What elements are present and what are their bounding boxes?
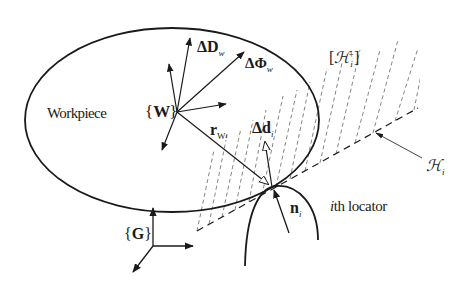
delta-d-arrow xyxy=(265,142,272,187)
frame-g-label: {G} xyxy=(124,226,152,242)
locator-label: ith locator xyxy=(330,199,387,214)
delta-Phi-label: ΔΦw xyxy=(245,56,273,74)
normal-label: ni xyxy=(290,200,301,219)
normal-arrow xyxy=(274,190,289,233)
halfspace-hatching xyxy=(197,40,422,231)
fixture-locator-diagram xyxy=(0,0,472,293)
halfspace-label: [ℋi+] xyxy=(329,50,359,69)
locator-outline xyxy=(245,186,318,266)
hyperplane-leader xyxy=(376,133,422,158)
frame-w-label: {W} xyxy=(145,103,177,120)
delta-d-label: Δdi xyxy=(252,120,273,139)
hyperplane-label: ℋi xyxy=(426,158,445,177)
workpiece-label: Workpiece xyxy=(47,106,106,121)
delta-D-label: ΔDw xyxy=(197,39,225,58)
r-vector-label: rWi xyxy=(210,122,228,141)
